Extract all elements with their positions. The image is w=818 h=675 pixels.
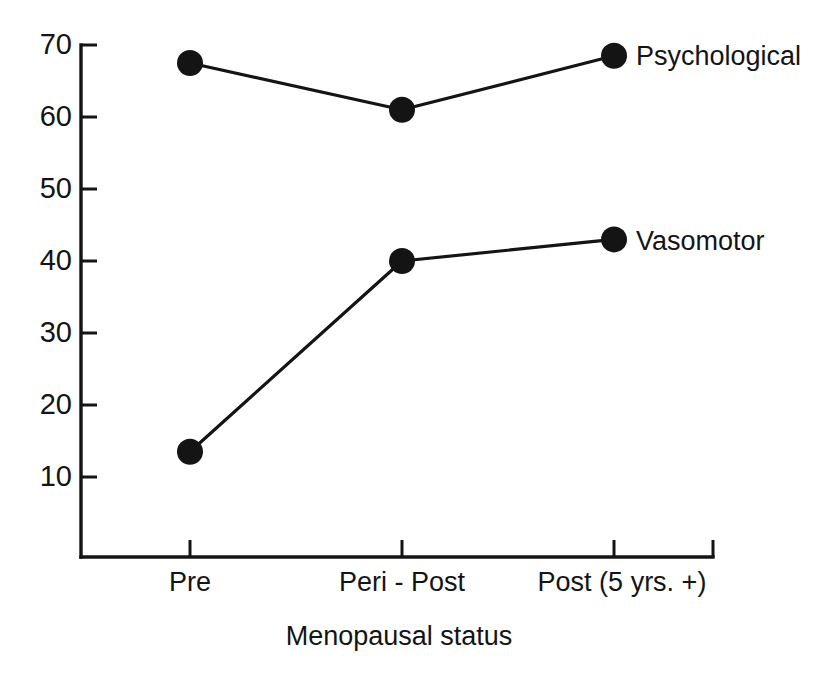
series-label-vasomotor: Vasomotor bbox=[636, 226, 765, 256]
y-tick-label-50: 50 bbox=[40, 172, 72, 204]
data-point-psychological-post-5yrs bbox=[601, 43, 627, 69]
data-point-vasomotor-pre bbox=[177, 439, 203, 465]
data-point-vasomotor-peri-post bbox=[389, 248, 415, 274]
chart-canvas: 70 60 50 40 30 20 10 Pre Peri - Post Pos… bbox=[0, 0, 818, 675]
series-psychological: Psychological bbox=[177, 41, 801, 123]
data-point-vasomotor-post-5yrs bbox=[601, 226, 627, 252]
x-axis-title: Menopausal status bbox=[286, 621, 513, 651]
x-tick-label-peri-post: Peri - Post bbox=[339, 567, 466, 597]
y-tick-label-10: 10 bbox=[40, 460, 72, 492]
x-tick-label-pre: Pre bbox=[169, 567, 211, 597]
data-point-psychological-pre bbox=[177, 50, 203, 76]
line-chart-figure: 70 60 50 40 30 20 10 Pre Peri - Post Pos… bbox=[0, 0, 818, 675]
y-tick-label-60: 60 bbox=[40, 100, 72, 132]
y-tick-label-40: 40 bbox=[40, 244, 72, 276]
y-tick-label-30: 30 bbox=[40, 316, 72, 348]
y-tick-label-20: 20 bbox=[40, 388, 72, 420]
series-label-psychological: Psychological bbox=[636, 41, 801, 71]
x-tick-labels-group: Pre Peri - Post Post (5 yrs. +) bbox=[169, 567, 706, 597]
x-ticks-group bbox=[190, 540, 614, 557]
data-point-psychological-peri-post bbox=[389, 97, 415, 123]
x-tick-label-post-5yrs: Post (5 yrs. +) bbox=[538, 567, 707, 597]
series-vasomotor: Vasomotor bbox=[177, 226, 765, 465]
y-tick-labels-group: 70 60 50 40 30 20 10 bbox=[40, 28, 72, 492]
y-ticks-group bbox=[81, 45, 97, 477]
y-tick-label-70: 70 bbox=[40, 28, 72, 60]
